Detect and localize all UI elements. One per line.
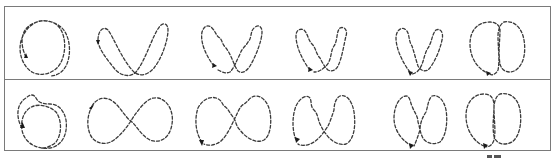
arrow-icon [483, 143, 488, 149]
panel-r1-c6 [470, 22, 525, 76]
panel-r2-c2 [88, 98, 173, 144]
panel-r1-c5 [396, 28, 443, 76]
panel-r1-c1 [20, 21, 69, 76]
panel-r2-c6 [466, 94, 521, 149]
panel-r2-c1 [18, 95, 66, 148]
panel-r1-c3 [202, 26, 262, 73]
panel-r2-c4 [293, 96, 355, 146]
panel-r1-c2 [96, 24, 168, 76]
trajectory-figure [0, 0, 556, 160]
panel-r2-c3 [196, 96, 271, 146]
arrow-icon [199, 140, 204, 146]
arrow-icon [295, 137, 300, 143]
arrow-icon [409, 143, 414, 149]
arrow-icon [486, 71, 491, 76]
panel-r1-c4 [296, 27, 347, 72]
panel-r2-c5 [394, 96, 447, 149]
cropped-caption-fragment [487, 155, 501, 160]
arrow-icon [96, 40, 100, 45]
